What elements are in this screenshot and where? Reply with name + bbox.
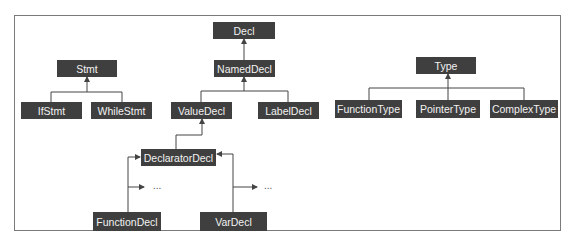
node-stmt: Stmt [57, 60, 117, 77]
ellipsis-left: ... [153, 180, 161, 191]
inheritance-edges [0, 0, 572, 248]
node-while-stmt: WhileStmt [91, 102, 152, 119]
node-label-decl: LabelDecl [258, 102, 319, 119]
node-if-stmt: IfStmt [21, 102, 82, 119]
node-type: Type [416, 57, 476, 74]
node-complex-type: ComplexType [490, 100, 558, 118]
node-function-type: FunctionType [335, 100, 402, 118]
node-var-decl: VarDecl [200, 212, 267, 231]
node-value-decl: ValueDecl [171, 102, 232, 119]
node-pointer-type: PointerType [416, 100, 480, 118]
node-function-decl: FunctionDecl [93, 212, 161, 231]
node-decl: Decl [213, 22, 275, 39]
ellipsis-right: ... [264, 180, 272, 191]
node-named-decl: NamedDecl [214, 60, 275, 77]
node-declarator-decl: DeclaratorDecl [141, 149, 216, 166]
